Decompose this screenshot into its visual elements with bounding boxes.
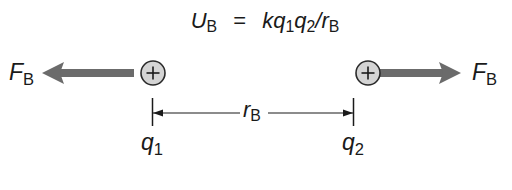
force-label-right: FB xyxy=(472,61,497,88)
dimension-arrowhead-left-icon xyxy=(153,110,163,117)
charge-diagram xyxy=(0,0,512,190)
separation-label: rB xyxy=(243,99,261,124)
charge-q2-icon xyxy=(356,61,380,85)
charge-label-q1: q1 xyxy=(141,131,163,158)
force-arrow-left-icon xyxy=(42,62,134,84)
force-label-left: FB xyxy=(9,61,34,88)
charge-label-q2: q2 xyxy=(342,131,364,158)
force-arrow-right-icon xyxy=(373,62,461,84)
charge-q1-icon xyxy=(141,61,165,85)
dimension-arrowhead-right-icon xyxy=(343,110,353,117)
